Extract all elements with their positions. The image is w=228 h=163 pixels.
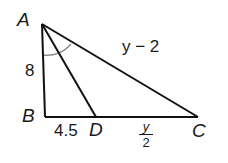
segment-ad — [42, 24, 96, 117]
vertex-label-d: D — [89, 120, 103, 139]
length-label-ab: 8 — [25, 62, 34, 79]
length-label-dc: y 2 — [139, 120, 153, 149]
length-label-ac-text: y − 2 — [122, 37, 159, 56]
triangle-diagram: A B D C 8 4.5 y − 2 y 2 — [0, 0, 228, 163]
vertex-label-c: C — [192, 121, 206, 140]
vertex-label-b: B — [22, 106, 35, 125]
length-label-ac: y − 2 — [122, 38, 159, 55]
vertex-label-a: A — [17, 10, 30, 29]
length-label-bd: 4.5 — [54, 122, 78, 139]
fraction-numerator: y — [139, 120, 153, 133]
segment-ac — [42, 24, 198, 117]
segment-ab — [42, 24, 45, 117]
fraction-denominator: 2 — [139, 136, 153, 149]
